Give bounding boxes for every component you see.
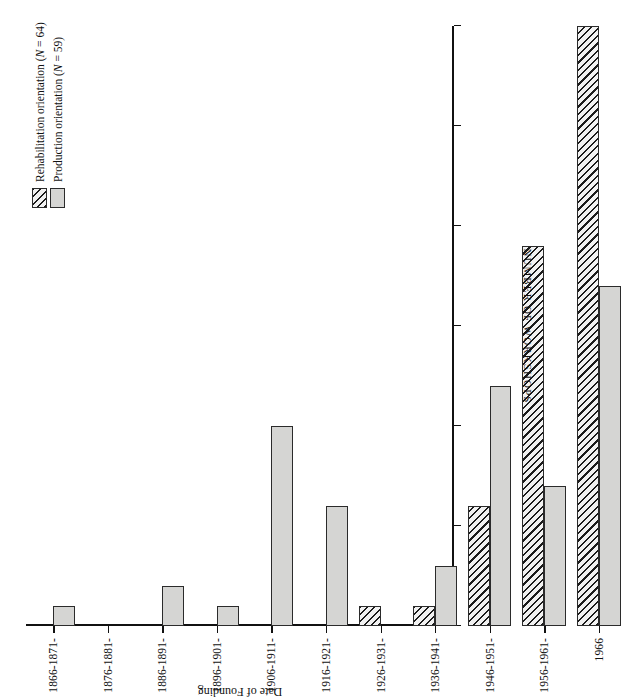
- category-axis-label: 1966: [593, 638, 605, 661]
- category-axis-tick: [490, 626, 491, 633]
- category-axis-tick: [381, 626, 382, 633]
- category-axis-label: 1926-1931-: [375, 638, 387, 693]
- category-axis-label: 1886-1891-: [156, 638, 168, 693]
- legend-label-production: Production orientation (N = 59): [52, 37, 64, 182]
- value-axis-title: NUMBER OF WORKSHOPS: [522, 26, 534, 626]
- category-axis-line: [26, 624, 454, 626]
- bar-production: [435, 566, 457, 626]
- category-axis-tick: [53, 626, 54, 633]
- bar-production: [162, 586, 184, 626]
- legend-swatch-production: [50, 188, 65, 208]
- legend-label-rehabilitation: Rehabilitation orientation (N = 64): [34, 22, 46, 182]
- category-axis-label: 1956-1961-: [538, 638, 550, 693]
- bar-rehabilitation: [413, 606, 435, 626]
- category-axis-label: 1866-1871-: [47, 638, 59, 693]
- category-axis-tick: [108, 626, 109, 633]
- value-axis-tick: [454, 125, 461, 126]
- bar-production: [544, 486, 566, 626]
- value-axis-tick: [454, 25, 461, 26]
- bar-production: [53, 606, 75, 626]
- category-axis-tick: [326, 626, 327, 633]
- category-axis-tick: [217, 626, 218, 633]
- legend-item-rehabilitation: Rehabilitation orientation (N = 64): [32, 22, 47, 208]
- bar-rehabilitation: [577, 26, 599, 626]
- bar-production: [326, 506, 348, 626]
- category-axis-tick: [435, 626, 436, 633]
- legend-swatch-rehabilitation: [32, 188, 47, 208]
- value-axis-tick: [454, 425, 461, 426]
- bar-rehabilitation: [359, 606, 381, 626]
- category-axis-tick: [544, 626, 545, 633]
- plot-area: 1866-1871-1876-1881-1886-1891-1896-1901-…: [26, 26, 454, 626]
- category-axis-label: 1916-1921-: [320, 638, 332, 693]
- category-axis-tick: [599, 626, 600, 633]
- bar-production: [271, 426, 293, 626]
- value-axis-line: [452, 26, 454, 626]
- bar-rehabilitation: [468, 506, 490, 626]
- category-axis-label: 1876-1881-: [102, 638, 114, 693]
- category-axis-tick: [162, 626, 163, 633]
- value-axis-tick: [454, 225, 461, 226]
- category-axis-label: 1936-1941-: [429, 638, 441, 693]
- bar-production: [217, 606, 239, 626]
- category-axis-tick: [271, 626, 272, 633]
- bar-production: [599, 286, 621, 626]
- legend-item-production: Production orientation (N = 59): [50, 22, 65, 208]
- bar-production: [490, 386, 512, 626]
- category-axis-title: Date of Founding: [198, 684, 283, 699]
- chart-legend: Rehabilitation orientation (N = 64) Prod…: [32, 22, 65, 208]
- value-axis-tick: [454, 325, 461, 326]
- value-axis-tick: [454, 525, 461, 526]
- category-axis-label: 1946-1951-: [484, 638, 496, 693]
